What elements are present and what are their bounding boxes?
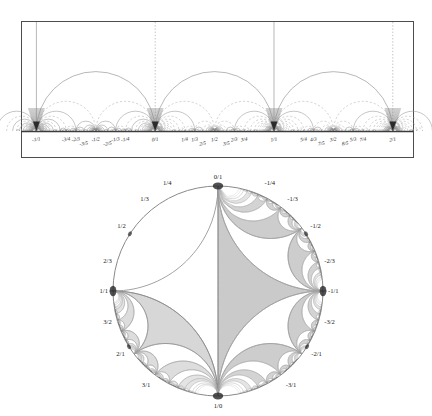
geodesic-arc-426: [116, 130, 118, 131]
geodesic-arc-333: [369, 129, 373, 131]
axis-tick-label: 7/5: [318, 140, 326, 147]
geodesic-arc-407: [304, 130, 307, 131]
axis-tick-label: -3/4: [61, 135, 70, 142]
geodesic-arc-350: [223, 129, 226, 131]
geodesic-arc-355: [182, 129, 185, 131]
disk-boundary-label: 0/1: [214, 173, 222, 180]
axis-tick-label: -1/1: [32, 135, 41, 142]
disk-cusp-0/1: [213, 183, 223, 190]
geodesic-arc-394: [53, 130, 56, 131]
geodesic-arc-356: [244, 129, 247, 131]
axis-tick-label: 3/2: [329, 136, 337, 143]
axis-tick-label: 2/1: [389, 136, 397, 143]
geodesic-arc-410: [298, 130, 301, 131]
tick-label-layer: -1/1-3/4-2/3-3/5-1/2-2/5-1/3-1/40/11/41/…: [32, 135, 397, 146]
upper-half-plane-panel: -1/1-3/4-2/3-3/5-1/2-2/5-1/3-1/40/11/41/…: [0, 0, 432, 172]
disk-boundary-label: 3/1: [142, 381, 150, 388]
geodesic-arc-403: [66, 130, 69, 131]
geodesic-arc-351: [104, 129, 107, 131]
geodesic-arc-416: [417, 130, 420, 131]
geodesic-arc-417: [331, 130, 334, 131]
geodesic-arc-326: [250, 129, 254, 131]
geodesic-arc-317: [56, 129, 60, 131]
axis-tick-label: 3/5: [223, 140, 231, 147]
disk-boundary-label: 1/0: [214, 402, 223, 409]
disk-boundary-label: 2/1: [116, 350, 124, 357]
axis-tick-label: 2/3: [230, 136, 238, 143]
axis-tick-label: 4/3: [310, 136, 318, 143]
geodesic-arc-397: [254, 130, 257, 131]
geodesic-arc-375: [81, 130, 84, 131]
geodesic-arc-6: [215, 101, 274, 131]
geodesic-arc-5: [155, 101, 214, 131]
geodesic-arc-404: [123, 130, 126, 131]
axis-tick-label: 5/3: [349, 136, 357, 143]
disk-boundary-label: 1/3: [140, 195, 149, 202]
geodesic-arc-379: [319, 130, 322, 131]
disk-boundary-label: -3/1: [286, 381, 297, 388]
axis-tick-label: -1/3: [111, 135, 120, 142]
geodesic-arc-420: [96, 130, 99, 131]
disk-boundary-label: -2/1: [311, 350, 322, 357]
geodesic-arc-418: [333, 130, 336, 131]
geodesic-arc-layer: [0, 72, 432, 131]
disk-boundary-label: 3/2: [103, 318, 111, 325]
axis-tick-label: 5/4: [300, 136, 308, 143]
geodesic-arc-413: [248, 130, 251, 131]
geodesic-arc-405: [185, 130, 188, 131]
geodesic-arc-382: [291, 130, 294, 131]
geodesic-arc-380: [345, 130, 348, 131]
disk-cusp-1/0: [213, 393, 223, 400]
geodesic-arc-353: [63, 129, 66, 131]
geodesic-arc-313: [175, 129, 179, 131]
axis-tick-label: -1/4: [121, 135, 130, 142]
geodesic-arc-349: [84, 129, 87, 131]
geodesic-arc-411: [366, 130, 369, 131]
geodesic-arc-352: [203, 129, 206, 131]
axis-tick-label: 3/4: [240, 136, 248, 143]
geodesic-arc-378: [226, 130, 229, 131]
geodesic-arc-0: [36, 72, 155, 131]
geodesic-arc-330: [294, 129, 298, 131]
disk-boundary-label: -1/1: [328, 287, 339, 294]
disk-boundary-label: -1/4: [264, 179, 275, 186]
disk-boundary-label: -1/3: [287, 195, 298, 202]
geodesic-arc-392: [135, 130, 138, 131]
geodesic-arc-1: [155, 72, 274, 131]
geodesic-arc-414: [129, 130, 132, 131]
geodesic-arc-7: [274, 101, 333, 131]
geodesic-arc-430: [353, 130, 355, 131]
geodesic-arc-354: [125, 129, 128, 131]
geodesic-arc-4: [96, 101, 155, 131]
vertical-geodesic-layer: [36, 22, 392, 131]
disk-boundary-label: 1/1: [100, 287, 108, 294]
axis-tick-label: 1/2: [211, 136, 219, 143]
geodesic-arc-377: [200, 130, 203, 131]
geodesic-arc-3: [36, 101, 95, 131]
disk-boundary-label: -1/2: [310, 222, 321, 229]
disk-boundary-label: 2/3: [103, 257, 112, 264]
geodesic-arc-312: [131, 129, 135, 131]
upper-half-plane-svg: -1/1-3/4-2/3-3/5-1/2-2/5-1/3-1/40/11/41/…: [0, 0, 432, 172]
axis-tick-label: -3/5: [79, 140, 88, 147]
geodesic-arc-347: [322, 129, 325, 131]
geodesic-arc-358: [300, 129, 303, 131]
poincare-disk-panel: 0/11/41/31/22/31/13/22/13/11/0-3/1-2/1-3…: [0, 172, 432, 416]
axis-tick-label: -1/2: [91, 135, 100, 142]
figure-root: -1/1-3/4-2/3-3/5-1/2-2/5-1/3-1/40/11/41/…: [0, 0, 432, 416]
poincare-disk-svg: 0/11/41/31/22/31/13/22/13/11/0-3/1-2/1-3…: [0, 172, 432, 416]
disk-boundary-label: -3/2: [324, 318, 335, 325]
geodesic-arc-2: [274, 72, 393, 131]
geodesic-arc-385: [373, 130, 376, 131]
geodesic-arc-421: [212, 130, 215, 131]
geodesic-arc-419: [93, 130, 96, 131]
geodesic-arc-400: [410, 130, 413, 131]
geodesic-arc-376: [108, 130, 111, 131]
geodesic-arc-389: [195, 130, 198, 131]
geodesic-arc-8: [333, 101, 392, 131]
geodesic-arc-383: [314, 130, 317, 131]
disk-boundary-label: -2/3: [324, 257, 335, 264]
geodesic-arc-348: [342, 129, 345, 131]
geodesic-arc-422: [215, 130, 218, 131]
axis-tick-label: 8/5: [341, 140, 349, 147]
